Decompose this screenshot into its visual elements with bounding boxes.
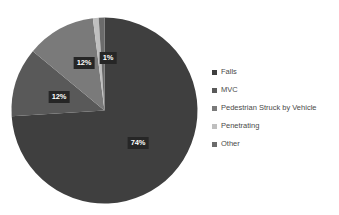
- legend-swatch-icon: [212, 142, 217, 147]
- slice-percentage-label: 12%: [49, 91, 70, 103]
- pie-chart-figure: 74%12%12%1% FallsMVCPedestrian Struck by…: [0, 0, 339, 215]
- legend-item-label: Penetrating: [221, 122, 259, 130]
- legend-swatch-icon: [212, 124, 217, 129]
- legend-item-label: Other: [221, 140, 240, 148]
- legend-item[interactable]: Other: [212, 135, 339, 153]
- legend-item[interactable]: Pedestrian Struck by Vehicle: [212, 99, 339, 117]
- pie-svg: [0, 0, 210, 215]
- slice-percentage-label: 1%: [100, 52, 117, 64]
- slice-percentage-label: 12%: [74, 57, 95, 69]
- legend-swatch-icon: [212, 70, 217, 75]
- legend-item[interactable]: MVC: [212, 81, 339, 99]
- legend-swatch-icon: [212, 88, 217, 93]
- legend-item[interactable]: Penetrating: [212, 117, 339, 135]
- pie-plot-area: 74%12%12%1%: [0, 0, 210, 215]
- legend-item-label: Pedestrian Struck by Vehicle: [221, 104, 316, 112]
- slice-percentage-label: 74%: [128, 137, 149, 149]
- legend-item-label: MVC: [221, 86, 238, 94]
- legend-swatch-icon: [212, 106, 217, 111]
- legend-item[interactable]: Falls: [212, 63, 339, 81]
- pie-slices: [11, 17, 197, 203]
- chart-legend: FallsMVCPedestrian Struck by VehiclePene…: [212, 63, 339, 153]
- legend-item-label: Falls: [221, 68, 237, 76]
